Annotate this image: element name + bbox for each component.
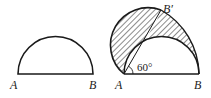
label-b-right: B bbox=[194, 78, 202, 92]
label-a-left: A bbox=[9, 78, 18, 92]
label-b-prime: B′ bbox=[163, 2, 173, 16]
label-b-left: B bbox=[89, 78, 97, 92]
diagram-canvas: A B A B B′ 60° bbox=[0, 0, 211, 98]
label-a-right: A bbox=[114, 78, 123, 92]
semicircle-left bbox=[18, 37, 93, 75]
angle-label: 60° bbox=[137, 61, 152, 73]
rotated-semicircle-figure bbox=[110, 8, 199, 74]
